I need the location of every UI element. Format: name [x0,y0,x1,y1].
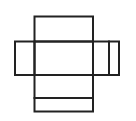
center-panel [35,42,94,76]
bottom-panel [35,75,94,98]
right-glue-strip [109,42,119,76]
bottom-glue-strip [35,98,94,112]
box-net-svg [0,0,136,121]
left-flap [15,42,35,76]
box-net-diagram [0,0,136,121]
right-panel [93,42,109,76]
top-flap [35,17,94,42]
